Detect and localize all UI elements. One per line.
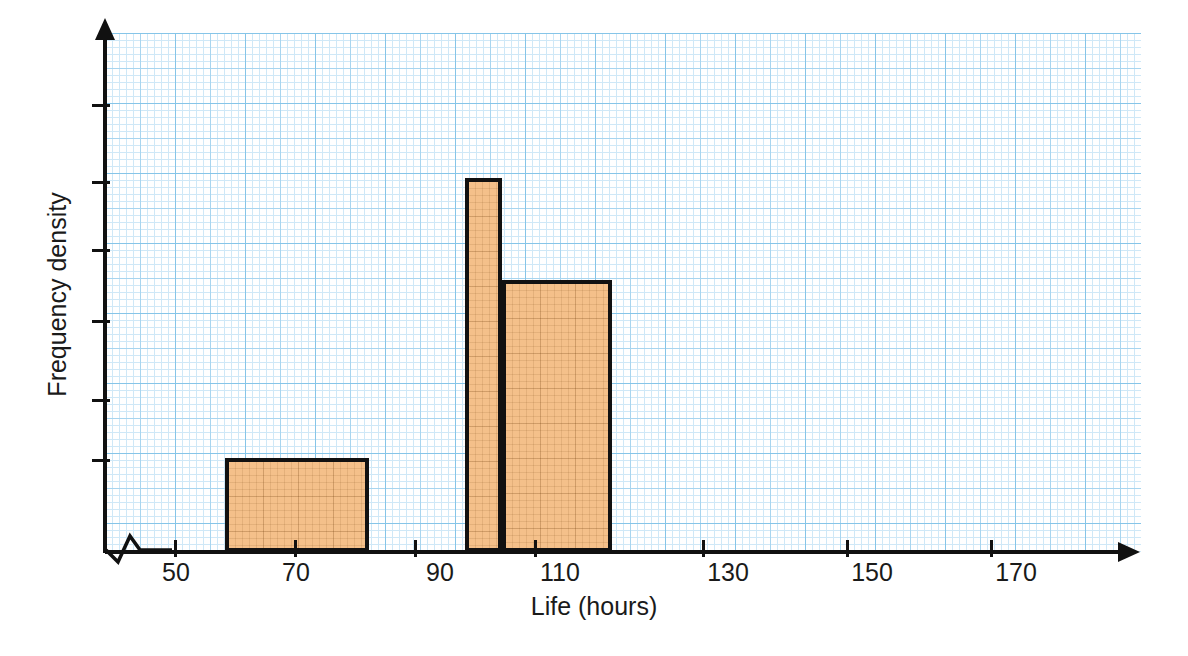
y-tick-4	[92, 249, 110, 252]
x-axis-line	[105, 550, 1120, 554]
histogram-bar-60-80	[225, 458, 369, 552]
x-axis-title: Life (hours)	[0, 592, 1188, 621]
x-axis-arrow-icon	[1118, 542, 1140, 562]
x-tick-label-70: 70	[261, 558, 331, 587]
x-tick-150	[846, 540, 849, 557]
histogram-bar-100-115	[502, 280, 612, 552]
y-tick-5	[92, 181, 110, 184]
x-tick-label-130: 130	[693, 558, 763, 587]
y-tick-1	[92, 459, 110, 462]
x-tick-70	[294, 540, 297, 557]
x-tick-label-110: 110	[525, 558, 595, 587]
x-tick-label-90: 90	[405, 558, 475, 587]
x-tick-110	[534, 540, 537, 557]
histogram-figure: 50 70 90 110 130 150 170 Life (hours) Fr…	[0, 0, 1188, 656]
y-tick-6	[92, 104, 110, 107]
x-tick-170	[990, 540, 993, 557]
x-tick-label-50: 50	[141, 558, 211, 587]
y-tick-3	[92, 320, 110, 323]
y-axis-title: Frequency density	[43, 185, 72, 405]
histogram-bar-95-100	[465, 178, 502, 552]
x-tick-50	[174, 540, 177, 557]
y-axis-arrow-icon	[95, 18, 115, 40]
x-tick-label-170: 170	[981, 558, 1051, 587]
y-tick-2	[92, 399, 110, 402]
x-tick-label-150: 150	[837, 558, 907, 587]
y-axis-line	[103, 40, 107, 553]
x-tick-90	[414, 540, 417, 557]
x-tick-130	[702, 540, 705, 557]
